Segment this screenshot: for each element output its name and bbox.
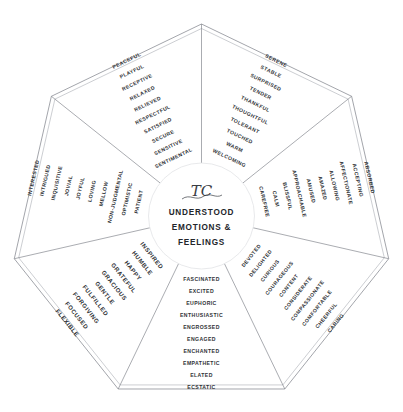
emotion-wheel: SERENESTABLESURPRISEDTENDERTHANKFULTHOUG… — [0, 0, 403, 412]
emotion-word: EMPATHETIC — [183, 360, 220, 366]
emotion-word: FASCINATED — [183, 276, 220, 282]
emotion-word: CALM — [271, 190, 281, 207]
emotion-word: JOYFUL — [75, 176, 86, 200]
emotion-word: AMAZED — [317, 176, 328, 201]
center-title-line-1: UNDERSTOOD — [169, 208, 235, 217]
emotion-word: WARM — [225, 140, 244, 153]
emotion-word: INTRIGUED — [38, 164, 51, 197]
emotion-word: ABSORBED — [363, 161, 376, 194]
emotion-word: EUPHORIC — [186, 300, 217, 306]
emotion-word: ALLOWING — [328, 170, 341, 202]
emotion-word: ENTHUSIASTIC — [180, 312, 223, 318]
emotion-word: PATIENT — [133, 189, 144, 214]
emotion-word: ECSTATIC — [187, 384, 215, 390]
emotion-word: AMUSED — [306, 178, 317, 204]
center-title-line-3: FEELINGS — [178, 238, 225, 247]
emotion-word: EXCITED — [189, 288, 214, 294]
emotion-word: JOVIAL — [63, 175, 74, 197]
emotion-word: BLISSFUL — [282, 182, 294, 211]
emotion-word: ENGROSSED — [183, 324, 220, 330]
emotion-word: ENCHANTED — [183, 348, 219, 354]
emotion-wheel-graphic: SERENESTABLESURPRISEDTENDERTHANKFULTHOUG… — [0, 0, 403, 412]
emotion-word: APPROACHABLE — [291, 169, 308, 218]
center-title-line-2: EMOTIONS & — [172, 223, 231, 232]
emotion-word: ENGAGED — [187, 336, 216, 342]
emotion-word: MELLOW — [98, 181, 109, 207]
emotion-word: INQUISITIVE — [50, 165, 64, 201]
emotion-word: CAREFREE — [258, 186, 271, 218]
emotion-word: ELATED — [190, 372, 213, 378]
emotion-word: ACCEPTING — [351, 163, 364, 198]
emotion-word: OPTIMISTIC — [120, 182, 133, 216]
emotion-word: LOVING — [86, 179, 97, 202]
emotion-word: INTERESTED — [26, 159, 40, 196]
